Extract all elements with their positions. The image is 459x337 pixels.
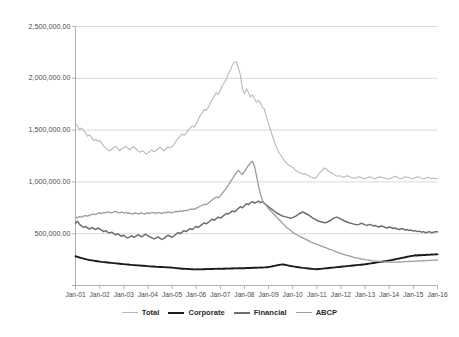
legend-swatch-financial xyxy=(234,312,250,314)
legend-label-corporate: Corporate xyxy=(188,308,224,317)
legend-label-abcp: ABCP xyxy=(316,308,338,317)
y-axis-tick-label: 2,000,000.00 xyxy=(0,73,71,82)
legend-item-corporate[interactable]: Corporate xyxy=(168,308,224,317)
chart-legend: TotalCorporateFinancialABCP xyxy=(0,308,459,317)
y-axis-tick-label: 2,500,000.00 xyxy=(0,22,71,31)
x-axis-tick-label: Jan-16 xyxy=(424,291,452,298)
legend-item-financial[interactable]: Financial xyxy=(234,308,287,317)
legend-swatch-corporate xyxy=(168,312,184,314)
legend-item-total[interactable]: Total xyxy=(122,308,160,317)
legend-label-total: Total xyxy=(142,308,160,317)
plot-area xyxy=(0,0,459,337)
legend-item-abcp[interactable]: ABCP xyxy=(296,308,338,317)
series-line-total xyxy=(76,62,438,180)
legend-label-financial: Financial xyxy=(254,308,287,317)
legend-swatch-abcp xyxy=(296,312,312,313)
legend-swatch-total xyxy=(122,312,138,313)
y-axis-tick-label: 1,000,000.00 xyxy=(0,177,71,186)
y-axis-tick-label: 1,500,000.00 xyxy=(0,125,71,134)
series-line-abcp xyxy=(76,161,438,262)
y-axis-tick-label: 500,000.00 xyxy=(0,229,71,238)
line-chart: 500,000.001,000,000.001,500,000.002,000,… xyxy=(0,0,459,337)
